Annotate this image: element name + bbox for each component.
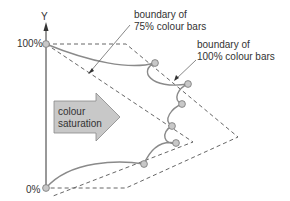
arrow-label-line1: colour [58,106,86,117]
saturation-arrow-icon [54,93,120,141]
y-axis-label: Y [41,11,48,22]
axis-arrow-icon [44,22,49,31]
colour-saturation-diagram: Y 100% 0% colour saturation boundary of … [0,0,290,201]
arrow-label-line2: saturation [58,118,102,129]
inner-boundary-label-2: 75% colour bars [134,21,206,32]
outer-boundary-label-2: 100% colour bars [197,51,275,62]
label-0-percent: 0% [26,184,41,195]
outer-boundary-label-1: boundary of [197,39,250,50]
inner-boundary-label-1: boundary of [134,9,187,20]
label-100-percent: 100% [17,38,43,49]
